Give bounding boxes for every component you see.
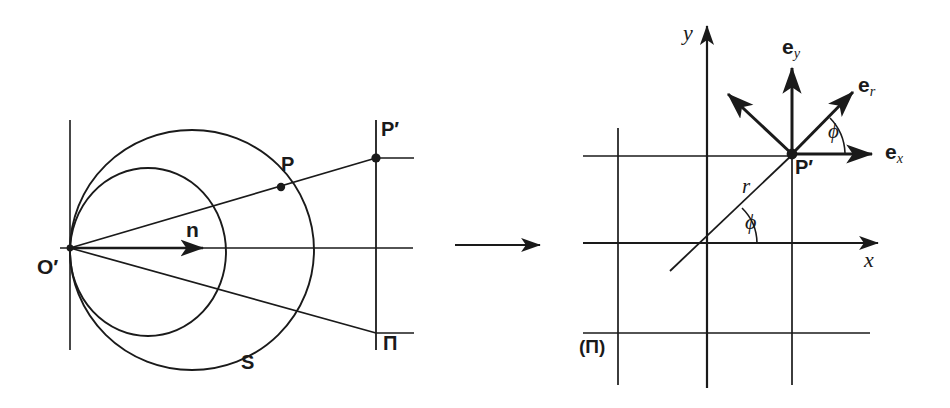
basis-vector-ephi: [728, 94, 792, 154]
label-point-P: P: [281, 154, 294, 174]
right-diagram: [583, 26, 878, 388]
basis-ey-head: e: [782, 35, 794, 58]
figure-vector-layer: [0, 0, 950, 408]
ray-to-plane-lower: [70, 248, 376, 333]
label-plane-pi-right: (Π): [579, 337, 605, 356]
label-angle-phi-point: ϕ: [828, 121, 839, 142]
label-sphere-S: S: [241, 352, 254, 372]
label-point-P-prime-left: P′: [381, 119, 399, 139]
point-O-prime: [67, 245, 74, 252]
label-angle-phi-origin: ϕ: [745, 211, 756, 233]
basis-ey-sub: y: [794, 45, 800, 61]
label-basis-ex: ex: [885, 141, 903, 165]
sphere-outline-large: [70, 130, 314, 370]
label-y-axis: y: [683, 22, 693, 44]
label-radius-r: r: [742, 176, 750, 197]
label-normal-vector: n: [186, 219, 199, 240]
label-o-prime: O′: [37, 256, 58, 277]
basis-er-sub: r: [870, 83, 876, 99]
basis-ex-head: e: [885, 140, 897, 163]
label-basis-er: er: [858, 74, 875, 98]
basis-er-head: e: [858, 73, 870, 96]
label-plane-pi: Π: [383, 333, 397, 353]
basis-ex-sub: x: [897, 150, 903, 166]
point-P: [277, 183, 285, 191]
left-diagram: [60, 120, 414, 370]
label-x-axis: x: [864, 249, 874, 271]
figure-canvas: O′ n P P′ S Π y x P′ r ϕ ϕ ex ey er (Π): [0, 0, 950, 408]
ray-to-plane-upper: [70, 158, 376, 248]
label-basis-ey: ey: [782, 36, 800, 60]
radius-line: [670, 155, 792, 271]
point-P-prime-left: [371, 153, 380, 162]
sphere-outline-small: [70, 168, 226, 336]
label-point-P-prime-right: P′: [795, 157, 813, 177]
